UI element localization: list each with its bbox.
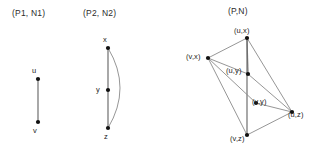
edge-x-z	[108, 48, 120, 128]
node-pn-ux	[245, 36, 249, 40]
edge-vx-vy	[208, 58, 256, 103]
edge-ux-vx	[208, 38, 247, 58]
node-p2n2-y	[106, 88, 110, 92]
node-p1n1-v	[36, 120, 40, 124]
graph-drawing	[0, 0, 320, 154]
node-p1n1-u	[36, 77, 40, 81]
edge-vz-uz	[247, 112, 292, 135]
panel-title-p1n1: (P1, N1)	[12, 8, 45, 18]
node-label-pn-uy: (u,y)	[226, 66, 242, 75]
node-pn-uy	[246, 72, 250, 76]
node-label-p2n2-y: y	[96, 85, 100, 94]
node-label-p2n2-x: x	[103, 35, 107, 44]
node-label-pn-vz: (v,z)	[230, 134, 245, 143]
node-label-pn-ux: (u,x)	[234, 26, 250, 35]
figure-canvas: (P1, N1)uv(P2, N2)xyz(P,N)(u,x)(v,x)(u,y…	[0, 0, 320, 154]
node-p2n2-x	[106, 46, 110, 50]
node-label-p2n2-z: z	[104, 132, 108, 141]
node-label-pn-uz: (u,z)	[288, 110, 304, 119]
node-pn-vz	[245, 133, 249, 137]
node-label-p1n1-v: v	[33, 126, 37, 135]
panel-title-p2n2: (P2, N2)	[83, 8, 116, 18]
panel-title-pn: (P,N)	[228, 6, 248, 16]
node-label-pn-vx: (v,x)	[186, 52, 201, 61]
node-label-p1n1-u: u	[32, 66, 36, 75]
node-pn-vx	[206, 56, 210, 60]
node-label-pn-vy: (v,y)	[252, 97, 267, 106]
node-p2n2-z	[106, 126, 110, 130]
